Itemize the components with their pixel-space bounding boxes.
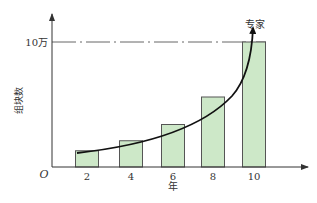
- x-tick-label: 8: [210, 171, 216, 182]
- chart: 10万 专家 O 年 组块数 246810: [0, 0, 317, 203]
- x-tick-label: 10: [248, 171, 261, 182]
- x-tick-label: 4: [128, 171, 134, 182]
- trend-curve: [77, 28, 253, 153]
- bar-10: [243, 42, 266, 167]
- y-reference-label: 10万: [25, 37, 48, 48]
- y-axis-title: 组块数: [13, 87, 24, 114]
- curve-arrow-label: 专家: [245, 18, 265, 30]
- origin-label: O: [39, 168, 48, 181]
- x-tick-label: 2: [84, 171, 90, 182]
- bar-8: [202, 97, 225, 167]
- bar-6: [162, 125, 185, 168]
- x-tick-labels: 246810: [84, 171, 261, 182]
- bars: [76, 42, 266, 167]
- x-tick-label: 6: [170, 171, 176, 182]
